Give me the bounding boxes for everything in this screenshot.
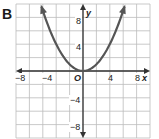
x-tick-neg4: −4 xyxy=(42,73,52,83)
x-tick-8: 8 xyxy=(135,73,140,83)
y-tick-8: 8 xyxy=(76,16,81,26)
y-tick-neg4: −4 xyxy=(70,95,80,105)
y-axis-bottom-arrow-icon xyxy=(80,132,86,138)
y-axis-label: y xyxy=(85,8,92,18)
x-tick-4: 4 xyxy=(108,73,113,83)
x-tick-neg8: −8 xyxy=(15,73,25,83)
origin-label: O xyxy=(74,73,81,83)
curve-left-arrow-icon xyxy=(40,5,47,15)
y-tick-4: 4 xyxy=(76,42,81,52)
parabola-chart: −8 −4 4 8 x O 8 4 −4 −8 y xyxy=(0,0,159,139)
x-axis-label: x xyxy=(141,73,148,83)
curve-right-arrow-icon xyxy=(119,5,126,15)
y-tick-neg8: −8 xyxy=(70,122,80,132)
